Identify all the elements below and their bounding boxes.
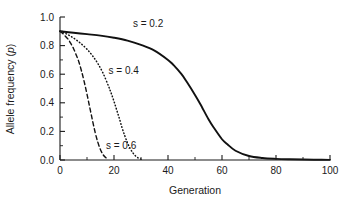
series-label: s = 0.6: [106, 140, 137, 151]
x-tick-label: 60: [216, 165, 228, 176]
x-tick-label: 20: [108, 165, 120, 176]
y-axis-title-paren: ): [4, 44, 16, 48]
series-label: s = 0.2: [133, 18, 164, 29]
y-tick-label: 0.8: [40, 40, 54, 51]
y-axis-title-text: Allele frequency (: [4, 53, 16, 135]
x-tick-label: 100: [322, 165, 339, 176]
series-label: s = 0.4: [109, 65, 140, 76]
allele-frequency-line-chart: 020406080100 0.00.20.40.60.81.0 s = 0.2s…: [0, 0, 346, 200]
y-tick-label: 0.6: [40, 69, 54, 80]
x-tick-label: 40: [162, 165, 174, 176]
y-axis-title: Allele frequency (p): [4, 44, 16, 134]
x-axis-title: Generation: [169, 184, 221, 196]
x-tick-label: 0: [57, 165, 63, 176]
chart-figure: 020406080100 0.00.20.40.60.81.0 s = 0.2s…: [0, 0, 346, 200]
y-tick-label: 0.2: [40, 126, 54, 137]
y-tick-label: 0.0: [40, 155, 54, 166]
x-tick-label: 80: [270, 165, 282, 176]
y-tick-label: 0.4: [40, 97, 54, 108]
y-tick-label: 1.0: [40, 12, 54, 23]
